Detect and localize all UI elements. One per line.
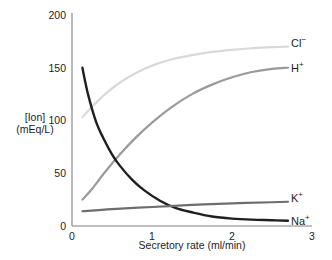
series-label-hydrogen-charge: + <box>299 60 304 69</box>
series-label-chloride: Cl− <box>291 38 306 49</box>
x-axis-title: Secretory rate (ml/min) <box>72 240 312 251</box>
series-lines-group <box>82 47 288 221</box>
series-label-potassium-charge: + <box>298 190 303 199</box>
y-tick-150: 150 <box>40 63 66 74</box>
series-label-chloride-charge: − <box>301 35 306 44</box>
series-label-sodium-base: Na <box>291 215 305 227</box>
series-label-chloride-base: Cl <box>291 37 301 49</box>
series-label-hydrogen-base: H <box>291 62 299 74</box>
y-tick-0: 0 <box>40 221 66 232</box>
axes-group <box>72 13 312 226</box>
series-label-sodium: Na+ <box>291 216 310 227</box>
series-line-Cl⁻ <box>82 47 288 118</box>
y-axis-title-line2: (mEq/L) <box>6 123 64 135</box>
series-label-hydrogen: H+ <box>291 63 304 74</box>
y-axis-title-line1: [Ion] <box>6 111 64 123</box>
series-line-Na⁺ <box>82 68 288 221</box>
y-axis-title: [Ion] (mEq/L) <box>6 111 64 135</box>
series-label-sodium-charge: + <box>305 213 310 222</box>
series-label-potassium: K+ <box>291 193 303 204</box>
ion-concentration-chart: 200 150 100 50 0 0 1 2 3 [Ion] (mEq/L) S… <box>0 0 332 260</box>
y-tick-200: 200 <box>40 10 66 21</box>
y-tick-50: 50 <box>40 168 66 179</box>
